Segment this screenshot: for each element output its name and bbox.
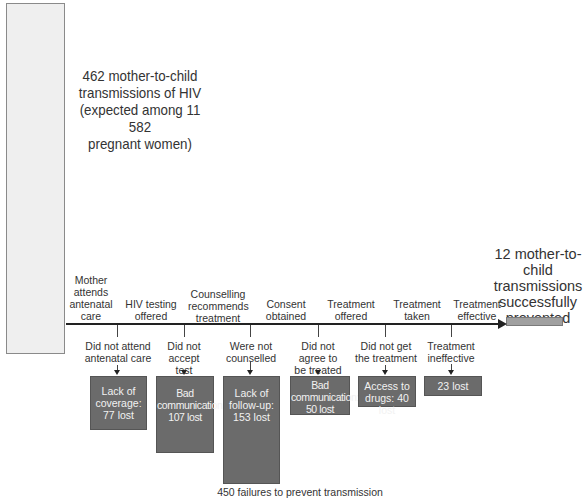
loss-box-line: Bad (291, 379, 349, 391)
step-label: HIV testing offered (122, 298, 180, 322)
main-title-line: 462 mother-to-child (76, 68, 205, 85)
failure-label: Did not attend antenatal care (82, 340, 154, 364)
arrow-down-icon (247, 370, 253, 375)
failure-label-line: Did not attend (82, 340, 154, 352)
branch-tick (318, 325, 319, 337)
failure-label-line: Treatment (420, 340, 482, 352)
loss-box-line: 107 lost (157, 411, 213, 423)
main-title-line: pregnant women) (76, 136, 205, 153)
step-label-line: Treatment (388, 298, 446, 310)
loss-box: 23 lost (424, 376, 482, 396)
loss-box: Lack of follow-up: 153 lost (223, 376, 280, 484)
failure-label-line: the treatment (352, 352, 420, 364)
loss-box-line: Access to (359, 380, 415, 392)
loss-box-line: Bad (157, 387, 213, 399)
main-title-line: transmissions of HIV (76, 85, 205, 102)
failure-label-line: Did not get (352, 340, 420, 352)
loss-box: Access to drugs: 40 lost (358, 376, 416, 407)
failure-label-line: accept (158, 352, 210, 364)
failure-label-line: counselled (222, 352, 280, 364)
loss-box-line: communication: (291, 391, 349, 403)
prevented-bar (506, 317, 563, 326)
loss-box-line: Lack of (224, 387, 279, 399)
loss-box: Lack of coverage: 77 lost (90, 376, 147, 430)
loss-box-line: follow-up: (224, 399, 279, 411)
step-label-line: Counselling (188, 288, 248, 300)
branch-tick (184, 325, 185, 337)
failure-label: Treatment ineffective (420, 340, 482, 364)
loss-box-line: coverage: (91, 397, 146, 409)
prevented-title-line: successfully (492, 294, 584, 310)
step-label: Treatment offered (322, 298, 380, 322)
failure-label-line: Did not (288, 340, 348, 352)
failure-label-line: antenatal care (82, 352, 154, 364)
step-label-line: Treatment (322, 298, 380, 310)
loss-box-line: drugs: 40 lost (359, 392, 415, 416)
step-label: Treatment taken (388, 298, 446, 322)
failure-label-line: Did not (158, 340, 210, 352)
loss-box-line: 153 lost (224, 411, 279, 423)
step-label-line: offered (122, 310, 180, 322)
step-label: Consent obtained (258, 298, 314, 322)
arrow-down-icon (315, 370, 321, 375)
step-label-line: effective (450, 310, 504, 322)
prevented-title: 12 mother-to-child transmissions success… (492, 246, 584, 326)
step-label-line: Mother (66, 274, 116, 286)
prevented-title-line: transmissions (492, 278, 584, 294)
arrow-down-icon (114, 370, 120, 375)
step-label-line: Treatment (450, 298, 504, 310)
failure-label-line: Were not (222, 340, 280, 352)
loss-box-line: 77 lost (91, 409, 146, 421)
arrow-down-icon (181, 370, 187, 375)
total-transmissions-bar (6, 3, 65, 354)
failures-caption: 450 failures to prevent transmission (180, 486, 420, 498)
step-label-line: obtained (258, 310, 314, 322)
loss-box-line: 50 lost (291, 403, 349, 415)
arrow-down-icon (382, 370, 388, 375)
step-label: Counselling recommends treatment (188, 288, 248, 324)
step-label-line: attends (66, 286, 116, 298)
branch-tick (250, 325, 251, 337)
step-label: Treatment effective (450, 298, 504, 322)
loss-box: Bad communication: 50 lost (290, 376, 350, 415)
branch-tick (451, 325, 452, 337)
step-label-line: antenatal (66, 298, 116, 310)
branch-tick (117, 325, 118, 337)
step-label-line: Consent (258, 298, 314, 310)
failure-label: Were not counselled (222, 340, 280, 364)
loss-box-line: 23 lost (425, 380, 481, 392)
main-title: 462 mother-to-child transmissions of HIV… (76, 68, 205, 153)
failure-label: Did not get the treatment (352, 340, 420, 364)
loss-box: Bad communication: 107 lost (156, 376, 214, 453)
step-label-line: treatment (188, 312, 248, 324)
arrow-down-icon (448, 370, 454, 375)
loss-box-line: Lack of (91, 385, 146, 397)
step-label-line: taken (388, 310, 446, 322)
failure-label-line: agree to (288, 352, 348, 364)
step-label-line: recommends (188, 300, 248, 312)
step-label-line: HIV testing (122, 298, 180, 310)
main-title-line: (expected among 11 582 (76, 102, 205, 136)
branch-tick (385, 325, 386, 337)
step-label-line: care (66, 310, 116, 322)
cascade-axis-line (66, 323, 500, 325)
step-label: Mother attends antenatal care (66, 274, 116, 322)
loss-box-line: communication: (157, 399, 213, 411)
step-label-line: offered (322, 310, 380, 322)
prevented-title-line: 12 mother-to-child (492, 246, 584, 278)
failure-label-line: ineffective (420, 352, 482, 364)
